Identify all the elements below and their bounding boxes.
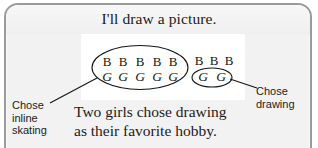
label-chose-drawing: Chose drawing xyxy=(256,85,295,110)
page-title: I'll draw a picture. xyxy=(0,10,318,28)
caption-text: Two girls chose drawing as their favorit… xyxy=(74,102,254,140)
diagram-panel xyxy=(81,34,245,100)
label-chose-inline-skating: Chose inline skating xyxy=(12,99,47,137)
worked-example-card: I'll draw a picture. B B B B B G G G G G… xyxy=(0,0,318,148)
